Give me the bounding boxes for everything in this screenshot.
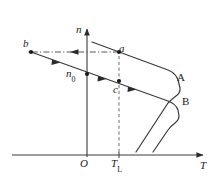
curve-B-group [31,52,179,152]
point-n0-dot [85,72,89,76]
figure-container: n T O TL b a c n0 A B [0,0,217,182]
origin-label: O [80,158,88,169]
tick-label-load-torque-subscript: L [117,165,122,174]
curve-A-group [92,42,180,152]
point-label-c: c [113,84,118,95]
curve-label-B: B [182,96,189,107]
point-label-n0-subscript: 0 [72,75,76,84]
axis-label-n: n [76,24,82,35]
point-label-n0-base: n [66,67,72,79]
curve-A-path [92,42,180,152]
flow-arrow-3 [128,87,137,93]
point-label-b: b [23,38,29,49]
diagram-canvas [0,0,217,182]
point-label-a: a [119,43,125,54]
curve-label-A: A [177,72,185,83]
curve-B-path [31,52,179,152]
point-label-n0: n0 [66,68,75,82]
arrowhead-left-on-dashdot [70,49,79,55]
point-b-dot [29,50,33,54]
axes-group [12,29,203,158]
axis-label-T: T [200,160,206,171]
tick-label-load-torque: TL [111,158,122,172]
